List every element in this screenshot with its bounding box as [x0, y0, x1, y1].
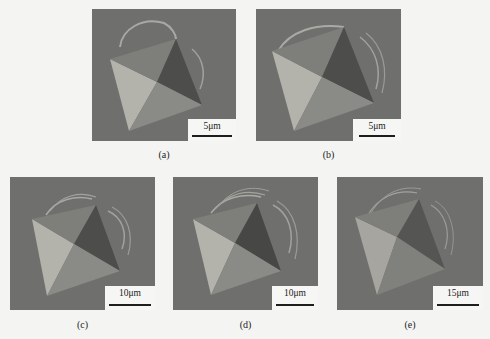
- caption-a: (a): [92, 149, 236, 160]
- scale-bar-b: 5μm: [353, 119, 401, 141]
- scale-label-a: 5μm: [188, 121, 236, 131]
- caption-d: (d): [173, 319, 318, 330]
- scale-label-e: 15μm: [433, 288, 483, 298]
- panel-c: 10μm (c): [10, 177, 155, 337]
- caption-e: (e): [337, 319, 483, 330]
- scale-line-b: [359, 135, 395, 137]
- caption-b: (b): [256, 149, 401, 160]
- scale-line-d: [276, 304, 314, 306]
- panel-d: 10μm (d): [173, 177, 318, 337]
- scale-bar-d: 10μm: [272, 286, 318, 310]
- caption-c: (c): [10, 319, 155, 330]
- scale-label-d: 10μm: [272, 288, 318, 298]
- panel-a: 5μm (a): [92, 9, 236, 161]
- scale-line-e: [437, 304, 479, 306]
- scale-bar-a: 5μm: [188, 119, 236, 141]
- panel-b: 5μm (b): [256, 9, 401, 161]
- scale-label-b: 5μm: [353, 121, 401, 131]
- scale-bar-c: 10μm: [105, 286, 155, 310]
- scale-line-c: [109, 304, 151, 306]
- scale-bar-e: 15μm: [433, 286, 483, 310]
- panel-e: 15μm (e): [337, 177, 483, 337]
- scale-label-c: 10μm: [105, 288, 155, 298]
- scale-line-a: [192, 135, 232, 137]
